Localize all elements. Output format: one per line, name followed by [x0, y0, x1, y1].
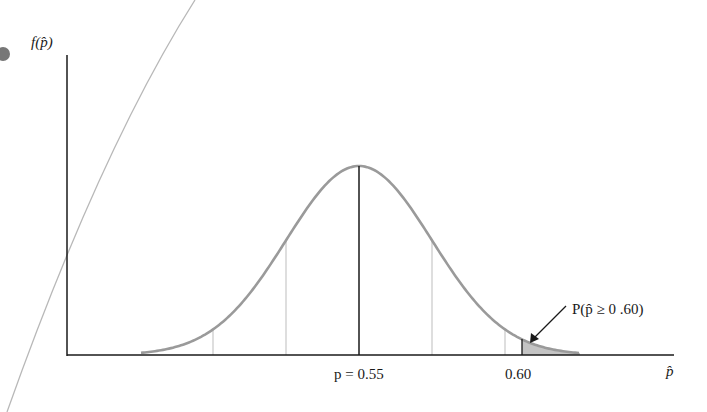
normal-curve [141, 166, 579, 353]
chart-canvas [0, 0, 707, 412]
y-axis-label: f(p̂) [31, 34, 53, 51]
tail-probability-annotation: P(p̂ ≥ 0 .60) [572, 301, 644, 318]
mean-tick-label: p = 0.55 [334, 366, 384, 383]
bullet-dot [0, 47, 10, 61]
x-axis-label: p̂ [666, 363, 674, 380]
cutoff-tick-label: 0.60 [505, 366, 531, 383]
annotation-arrow [534, 306, 566, 338]
